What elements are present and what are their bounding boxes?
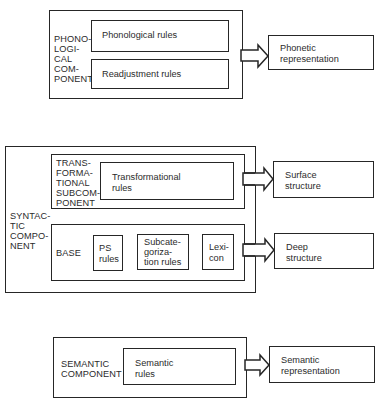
arrow-semantic-icon bbox=[245, 355, 269, 375]
flow-arrows bbox=[0, 0, 381, 407]
arrow-phonetic-icon bbox=[241, 45, 268, 67]
